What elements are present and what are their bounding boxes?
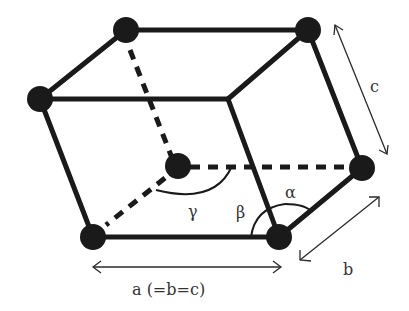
edge-top-right	[228, 30, 308, 99]
atom-front-bottom-left	[80, 224, 106, 250]
atom-top-front-left	[27, 86, 53, 112]
label-beta: β	[236, 203, 245, 222]
hidden-edge-vertical	[130, 50, 172, 158]
label-a: a (=b=c)	[132, 280, 205, 299]
dimension-arrow-c	[334, 25, 388, 154]
dimension-arrow-a	[93, 261, 281, 273]
edge-bottom-right	[279, 168, 362, 237]
atom-back-bottom-left	[165, 153, 191, 179]
edge-front-left	[40, 99, 93, 237]
edge-top-left	[40, 30, 126, 99]
atom-front-bottom-right	[266, 224, 292, 250]
label-b: b	[343, 260, 353, 279]
label-c: c	[370, 77, 379, 96]
label-alpha: α	[285, 183, 296, 202]
atom-back-bottom-right	[349, 155, 375, 181]
atom-top-back-left	[113, 17, 139, 43]
edge-back-right	[308, 30, 362, 168]
atom-top-back-right	[295, 17, 321, 43]
hidden-edge-diagonal	[106, 178, 165, 225]
unit-cell-diagram: a (=b=c) b c α β γ	[0, 0, 409, 311]
label-gamma: γ	[188, 202, 198, 221]
